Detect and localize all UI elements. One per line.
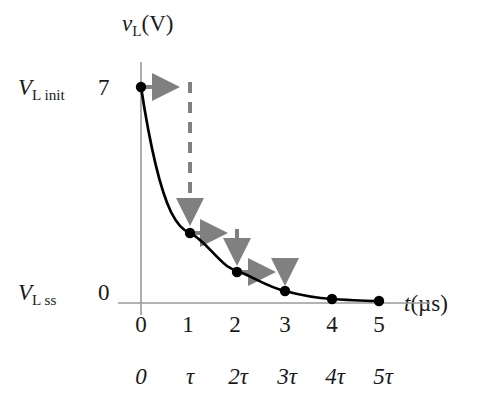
chart-figure: vL(V) t(µs) VL init VL ss 7 0 0 1 2 3 4 … bbox=[0, 0, 490, 420]
data-point-0 bbox=[136, 82, 146, 92]
data-point-2 bbox=[232, 267, 242, 277]
data-point-1 bbox=[185, 228, 195, 238]
decay-curve bbox=[141, 87, 379, 301]
data-point-4 bbox=[327, 294, 337, 304]
data-point-3 bbox=[280, 286, 290, 296]
data-point-5 bbox=[374, 296, 384, 306]
axes bbox=[118, 62, 430, 315]
plot-canvas bbox=[0, 0, 490, 420]
